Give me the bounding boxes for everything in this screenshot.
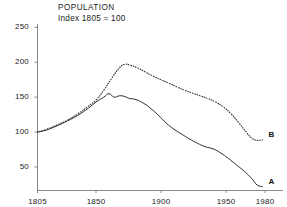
- axes: [38, 24, 284, 191]
- x-tick-label: 1900: [144, 197, 178, 206]
- y-tick-label: 200: [3, 57, 29, 66]
- x-tick-label: 1850: [79, 197, 113, 206]
- population-index-chart: POPULATION Index 1805 = 100 501001502002…: [0, 0, 287, 207]
- y-tick-label: 250: [3, 22, 29, 31]
- series-label-a: A: [268, 177, 274, 186]
- y-tick-label: 150: [3, 92, 29, 101]
- series-line-a: [38, 94, 263, 187]
- y-tick-label: 100: [3, 127, 29, 136]
- y-tick-label: 50: [3, 162, 29, 171]
- chart-plot-area: [0, 0, 287, 207]
- x-tick-label: 1805: [21, 197, 55, 206]
- series-label-b: B: [268, 130, 274, 139]
- x-tick-label: 1950: [209, 197, 243, 206]
- x-tick-label: 1980: [248, 197, 282, 206]
- series-line-b: [38, 64, 263, 140]
- series-paths: [38, 64, 263, 186]
